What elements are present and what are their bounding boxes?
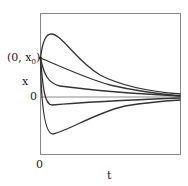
curve-slow-decay bbox=[41, 58, 181, 96]
plot-frame bbox=[41, 14, 181, 155]
initial-point-label: (0, x0) bbox=[7, 52, 40, 66]
phase-plot bbox=[0, 0, 188, 186]
initial-point-label-text: (0, x bbox=[7, 51, 32, 64]
curve-small-undershoot bbox=[41, 58, 181, 105]
initial-point-label-close: ) bbox=[36, 51, 40, 64]
x-axis-label: t bbox=[107, 170, 111, 181]
y-axis-label: x bbox=[22, 76, 28, 87]
x-zero-tick-label: 0 bbox=[36, 159, 43, 170]
curve-large-undershoot bbox=[41, 58, 181, 134]
y-zero-tick-label: 0 bbox=[30, 91, 37, 102]
curve-fast-decay bbox=[41, 58, 181, 96]
